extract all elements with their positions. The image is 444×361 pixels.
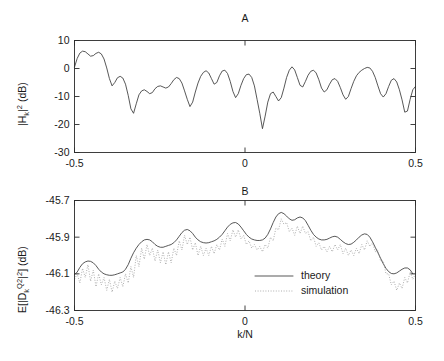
panel-a-ticks <box>75 41 416 153</box>
panel-a-ytick-labels: 100-10-20-30 <box>54 34 69 158</box>
svg-text:|Hk|2 (dB): |Hk|2 (dB) <box>15 82 31 126</box>
trace-channel-magnitude-response <box>75 51 416 129</box>
panel-a-traces <box>75 51 416 129</box>
y-tick-label: -20 <box>54 118 69 130</box>
x-tick-label: 0.5 <box>408 315 423 327</box>
trace-simulation <box>75 219 416 292</box>
panel-b-ytick-labels: -45.7-45.9-46.1-46.3 <box>46 194 70 316</box>
panel-b-plot: B E[|DkQ2|2] (dB) -45.7-45.9-46.1-46.3 -… <box>0 180 444 361</box>
y-tick-label: -45.9 <box>46 231 70 243</box>
panel-a-title: A <box>241 12 248 24</box>
y-tick-label: -46.1 <box>46 267 70 279</box>
trace-theory <box>75 212 413 275</box>
x-tick-label: 0 <box>242 157 248 169</box>
panel-b-title: B <box>241 185 248 197</box>
panel-a: A |Hk|2 (dB) 100-10-20-30 -0.500.5 <box>0 0 444 180</box>
y-tick-label: 0 <box>64 62 70 74</box>
legend-label-simulation: simulation <box>301 284 348 296</box>
svg-text:E[|DkQ2|2] (dB): E[|DkQ2|2] (dB) <box>15 246 31 313</box>
panel-a-plot: A |Hk|2 (dB) 100-10-20-30 -0.500.5 <box>0 0 444 180</box>
panel-a-axes-box <box>75 41 416 153</box>
legend-label-theory: theory <box>301 269 331 281</box>
x-tick-label: -0.5 <box>65 315 83 327</box>
x-tick-label: -0.5 <box>65 157 83 169</box>
figure-container: A |Hk|2 (dB) 100-10-20-30 -0.500.5 B E[|… <box>0 0 444 361</box>
x-tick-label: 0.5 <box>408 157 423 169</box>
panel-b-ticks <box>75 201 416 311</box>
y-tick-label: -10 <box>54 90 69 102</box>
panel-b-legend: theorysimulation <box>255 269 348 296</box>
panel-b-ylabel: E[|DkQ2|2] (dB) <box>15 246 31 313</box>
x-tick-label: 0 <box>242 315 248 327</box>
panel-b-xlabel: k/N <box>237 328 253 340</box>
y-tick-label: -45.7 <box>46 194 70 206</box>
panel-a-ylabel: |Hk|2 (dB) <box>15 82 31 126</box>
panel-b-axes-box <box>75 201 416 311</box>
panel-a-xtick-labels: -0.500.5 <box>65 157 422 169</box>
y-tick-label: 10 <box>58 34 70 46</box>
panel-b-traces <box>75 212 416 292</box>
panel-b: B E[|DkQ2|2] (dB) -45.7-45.9-46.1-46.3 -… <box>0 180 444 361</box>
panel-b-xtick-labels: -0.500.5 <box>65 315 422 327</box>
